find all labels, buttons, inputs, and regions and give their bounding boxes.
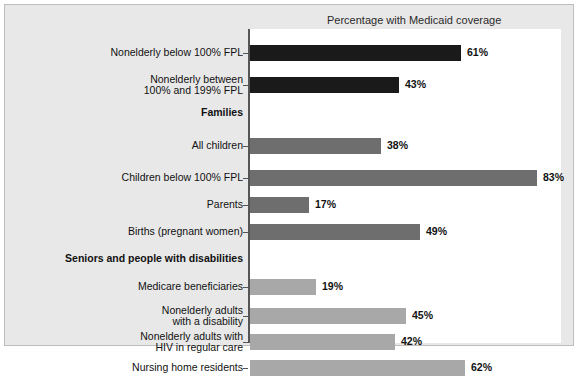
section-header-row: Families [5, 101, 571, 125]
bar-rows-container: Nonelderly below 100% FPL61%Nonelderly b… [5, 29, 571, 343]
axis-tick [243, 368, 248, 369]
axis-tick [243, 205, 248, 206]
section-header-label: Families [201, 107, 243, 119]
bar-value-label: 83% [543, 171, 564, 183]
axis-tick [243, 178, 248, 179]
axis-tick [243, 85, 248, 86]
bar [250, 77, 399, 93]
bar-value-label: 45% [412, 309, 433, 321]
bar-value-label: 19% [322, 280, 343, 292]
bar-value-label: 38% [387, 139, 408, 151]
bar [250, 279, 316, 295]
bar-value-label: 17% [315, 198, 336, 210]
bar-row-label: Nursing home residents [132, 362, 243, 374]
bar-row-label: Nonelderly adults with a disability [162, 305, 243, 328]
bar-value-label: 62% [471, 361, 492, 373]
axis-tick [243, 287, 248, 288]
bar [250, 334, 395, 350]
chart-panel: Percentage with Medicaid coverage Noneld… [4, 4, 574, 346]
axis-tick [243, 146, 248, 147]
chart-title: Percentage with Medicaid coverage [327, 14, 501, 26]
bar [250, 45, 461, 61]
bar [250, 224, 420, 240]
bar [250, 308, 406, 324]
bar-value-label: 61% [467, 46, 488, 58]
section-header-row: Seniors and people with disabilities [5, 247, 571, 271]
axis-tick [243, 232, 248, 233]
bar-row-label: Parents [207, 199, 243, 211]
bar [250, 360, 465, 376]
bar [250, 170, 537, 186]
bar-row-label: Medicare beneficiaries [138, 281, 243, 293]
bar-value-label: 42% [401, 335, 422, 347]
bar-value-label: 49% [426, 225, 447, 237]
bar-row-label: Births (pregnant women) [128, 226, 243, 238]
axis-tick [243, 316, 248, 317]
bar [250, 138, 381, 154]
bar [250, 197, 309, 213]
bar-row-label: Nonelderly adults with HIV in regular ca… [140, 331, 243, 354]
bar-row-label: All children [192, 140, 243, 152]
bar-value-label: 43% [405, 78, 426, 90]
bar-row-label: Children below 100% FPL [122, 172, 243, 184]
axis-tick [243, 53, 248, 54]
section-header-label: Seniors and people with disabilities [65, 253, 243, 265]
bar-row-label: Nonelderly between 100% and 199% FPL [144, 74, 243, 97]
axis-tick [243, 342, 248, 343]
bar-row-label: Nonelderly below 100% FPL [111, 47, 244, 59]
